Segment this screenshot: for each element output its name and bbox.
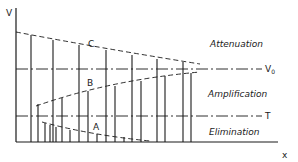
t-label: T: [264, 111, 271, 121]
amplification-label: Amplification: [207, 89, 267, 99]
convergence-diagram: V x V0 T C B A Attenuation Amplification…: [0, 0, 298, 162]
curve-a-label: A: [93, 122, 100, 132]
curve-c-label: C: [88, 39, 94, 49]
attenuation-label: Attenuation: [209, 39, 263, 49]
x-axis-label: x: [282, 150, 288, 160]
short-bars: [45, 123, 124, 142]
curve-b: [36, 72, 200, 106]
tall-bars: [31, 35, 183, 142]
medium-bars: [38, 73, 191, 142]
v0-label: V0: [265, 64, 275, 75]
y-axis-label: V: [6, 8, 13, 18]
elimination-label: Elimination: [209, 127, 260, 137]
curve-b-label: B: [87, 78, 93, 88]
curve-c: [16, 32, 200, 64]
